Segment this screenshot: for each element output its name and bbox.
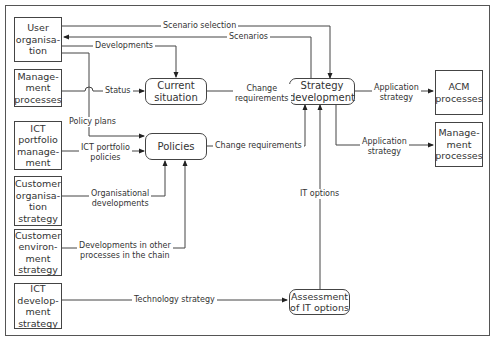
flow-change-requirements-2 <box>207 105 305 146</box>
label-change-requirements-1: Change requirements <box>233 84 291 103</box>
label-application-strategy-mgmt: Application strategy <box>360 137 409 156</box>
label-scenarios: Scenarios <box>227 32 270 42</box>
box-policies: Policies <box>145 133 207 160</box>
box-customer-organisation-strategy: Customer organisa- tion strategy <box>14 176 62 226</box>
label-it-options: IT options <box>298 189 341 199</box>
label-ict-portfolio-policies: ICT portfolio policies <box>79 143 132 162</box>
box-assessment-of-it-options: Assessment of IT options <box>289 289 350 315</box>
connector-lines <box>0 0 495 343</box>
box-user-organisation: User organisa- tion <box>14 17 62 62</box>
label-developments: Developments <box>93 41 155 51</box>
label-scenario-selection: Scenario selection <box>161 21 238 31</box>
label-policy-plans: Policy plans <box>67 117 118 127</box>
box-current-situation: Current situation <box>145 78 207 105</box>
box-strategy-development: Strategy development <box>289 78 355 105</box>
box-management-processes-target: Manage- ment processes <box>435 122 483 167</box>
flow-developments <box>62 46 176 77</box>
box-ict-development-strategy: ICT develop- ment strategy <box>14 283 62 329</box>
label-organisational-developments: Organisational developments <box>89 189 151 208</box>
label-change-requirements-2: Change requirements <box>213 141 304 151</box>
box-acm-processes: ACM processes <box>435 70 483 115</box>
box-ict-portfolio-management: ICT portfolio manage- ment <box>14 121 62 170</box>
flow-scenario-selection <box>62 26 330 78</box>
label-developments-other-processes: Developments in other processes in the c… <box>77 241 173 260</box>
label-status: Status <box>103 86 133 96</box>
box-customer-environment-strategy: Customer environ- ment strategy <box>14 229 62 276</box>
label-technology-strategy: Technology strategy <box>132 295 217 305</box>
box-management-processes-source: Manage- ment processes <box>14 69 62 107</box>
label-application-strategy-acm: Application strategy <box>372 83 421 102</box>
